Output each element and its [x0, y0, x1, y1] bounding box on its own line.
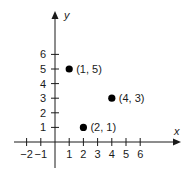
data-point-label: (1, 5) — [76, 63, 102, 75]
y-axis-label: y — [63, 9, 71, 21]
x-axis-arrow-icon — [173, 139, 181, 146]
x-axis-label: x — [173, 125, 180, 137]
y-axis-arrow-icon — [52, 11, 59, 19]
x-tick-label: 4 — [109, 148, 115, 160]
data-point-label: (4, 3) — [119, 92, 145, 104]
y-ticks: 123456 — [40, 48, 59, 133]
y-tick-label: 5 — [40, 63, 46, 75]
y-tick-label: 6 — [40, 48, 46, 60]
y-tick-label: 3 — [40, 92, 46, 104]
x-tick-label: −1 — [35, 148, 48, 160]
x-tick-label: 6 — [137, 148, 143, 160]
x-tick-label: 5 — [123, 148, 129, 160]
data-point-label: (2, 1) — [90, 121, 116, 133]
data-point — [108, 95, 115, 102]
data-point — [80, 124, 87, 131]
data-point — [66, 65, 73, 72]
y-tick-label: 4 — [40, 78, 46, 90]
data-points: (1, 5)(4, 3)(2, 1) — [66, 63, 145, 133]
x-tick-label: 1 — [66, 148, 72, 160]
x-tick-label: 2 — [80, 148, 86, 160]
coordinate-plane-chart: x y −2−1123456 123456 (1, 5)(4, 3)(2, 1) — [0, 0, 188, 176]
x-tick-label: 3 — [95, 148, 101, 160]
x-ticks: −2−1123456 — [20, 138, 143, 160]
y-tick-label: 1 — [40, 121, 46, 133]
y-tick-label: 2 — [40, 107, 46, 119]
x-tick-label: −2 — [20, 148, 33, 160]
